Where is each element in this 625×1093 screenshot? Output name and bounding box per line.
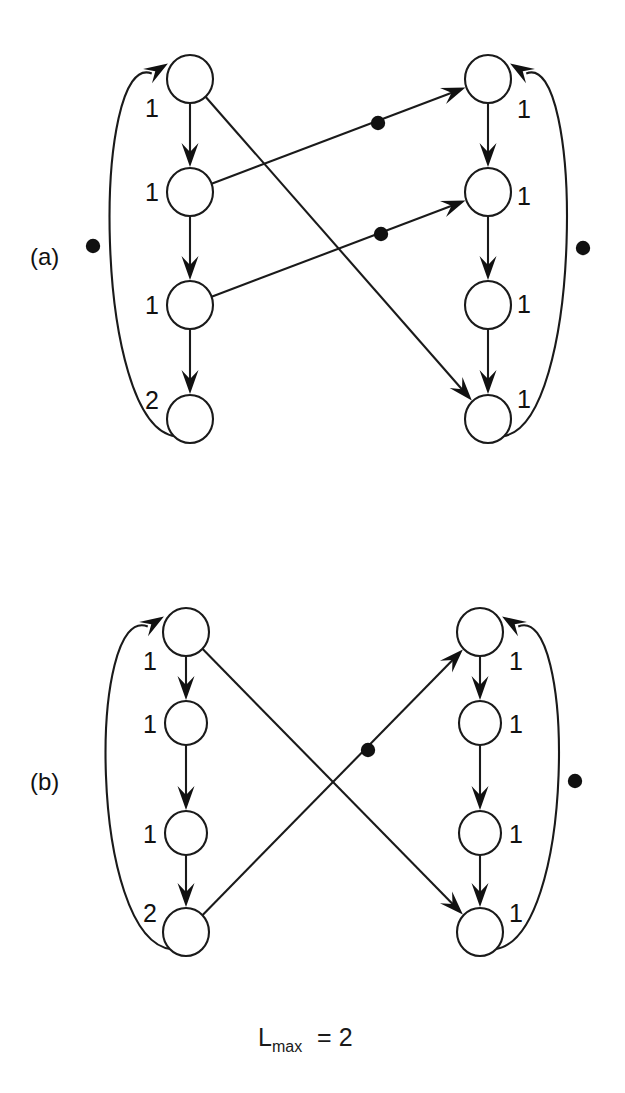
token-dot-icon xyxy=(576,241,590,255)
place-weight-label: 1 xyxy=(517,95,531,123)
place-weight-label: 1 xyxy=(509,899,523,927)
place-bL3[interactable] xyxy=(165,811,207,855)
edge-arc xyxy=(494,625,559,949)
edge-bL2-bL3 xyxy=(178,745,195,810)
arrowhead-icon xyxy=(143,64,168,84)
edge-aR2-aR3 xyxy=(480,216,497,280)
token-dot-icon xyxy=(374,227,388,241)
figure-canvas: 11121111(a)11121111(b)Lmax = 2 xyxy=(0,0,625,1093)
place-weight-label: 1 xyxy=(145,178,159,206)
place-bL4[interactable] xyxy=(163,908,209,956)
edge-arc xyxy=(502,72,567,436)
place-bR3[interactable] xyxy=(459,811,501,855)
place-weight-label: 2 xyxy=(145,386,159,414)
place-aR1[interactable] xyxy=(465,55,511,103)
place-bL2[interactable] xyxy=(165,701,207,745)
panel-b: 11121111(b) xyxy=(30,608,582,956)
edge-segment xyxy=(212,204,457,297)
edge-bR1-bR2 xyxy=(472,656,489,700)
edge-aL4-aL1 xyxy=(86,64,176,437)
panel-label-a: (a) xyxy=(30,243,59,270)
place-weight-label: 1 xyxy=(517,290,531,318)
petri-net-diagram: 11121111(a)11121111(b)Lmax = 2 xyxy=(0,0,625,1093)
edge-aL1-aR4 xyxy=(206,97,472,401)
edge-aL1-aL2 xyxy=(182,103,199,167)
edge-layer-a xyxy=(86,64,590,437)
place-bR4[interactable] xyxy=(457,908,503,956)
caption-subscript: max xyxy=(272,1038,302,1055)
place-aR3[interactable] xyxy=(465,281,511,329)
edge-aL2-aL3 xyxy=(182,216,199,280)
caption-relation: = 2 xyxy=(310,1023,352,1051)
place-weight-label: 1 xyxy=(143,820,157,848)
edge-segment xyxy=(206,97,466,394)
arrowhead-icon xyxy=(502,617,527,637)
token-dot-icon xyxy=(371,116,385,130)
place-bL1[interactable] xyxy=(163,608,209,656)
edge-bR3-bR4 xyxy=(472,855,489,907)
place-aR4[interactable] xyxy=(465,395,511,443)
arrowhead-icon xyxy=(510,64,535,84)
edge-aR3-aR4 xyxy=(480,329,497,394)
place-aL4[interactable] xyxy=(167,395,213,443)
place-aL2[interactable] xyxy=(167,168,213,216)
place-weight-label: 2 xyxy=(143,899,157,927)
place-weight-label: 1 xyxy=(143,647,157,675)
token-dot-icon xyxy=(568,774,582,788)
place-weight-label: 1 xyxy=(517,182,531,210)
edge-bL1-bL2 xyxy=(178,656,195,700)
place-weight-label: 1 xyxy=(145,94,159,122)
place-bR2[interactable] xyxy=(459,701,501,745)
edge-segment xyxy=(212,91,457,184)
edge-arc xyxy=(106,625,172,949)
edge-bR4-bR1 xyxy=(494,617,582,950)
edge-aR1-aR2 xyxy=(480,103,497,167)
place-weight-label: 1 xyxy=(509,710,523,738)
place-weight-label: 1 xyxy=(143,710,157,738)
caption-base: L xyxy=(258,1023,272,1051)
figure-caption: Lmax = 2 xyxy=(258,1023,353,1055)
place-weight-label: 1 xyxy=(509,647,523,675)
place-aL1[interactable] xyxy=(167,55,213,103)
edge-bL4-bL1 xyxy=(106,617,172,950)
panel-label-b: (b) xyxy=(30,768,59,795)
place-weight-label: 1 xyxy=(145,291,159,319)
edge-aL2-aR1 xyxy=(212,88,466,184)
edge-bL3-bL4 xyxy=(178,855,195,907)
edge-bR2-bR3 xyxy=(472,745,489,810)
token-dot-icon xyxy=(361,743,375,757)
edge-segment xyxy=(202,656,456,915)
edge-segment xyxy=(202,649,456,908)
arrowhead-icon xyxy=(139,617,164,637)
place-weight-label: 1 xyxy=(517,385,531,413)
edge-aL3-aL4 xyxy=(182,329,199,394)
caption-formula: Lmax = 2 xyxy=(258,1023,353,1055)
panel-a: 11121111(a) xyxy=(30,55,590,443)
edge-aR4-aR1 xyxy=(502,64,590,437)
edge-arc xyxy=(110,72,176,436)
place-bR1[interactable] xyxy=(457,608,503,656)
token-dot-icon xyxy=(86,239,100,253)
place-aL3[interactable] xyxy=(167,281,213,329)
place-weight-label: 1 xyxy=(509,820,523,848)
place-aR2[interactable] xyxy=(465,168,511,216)
